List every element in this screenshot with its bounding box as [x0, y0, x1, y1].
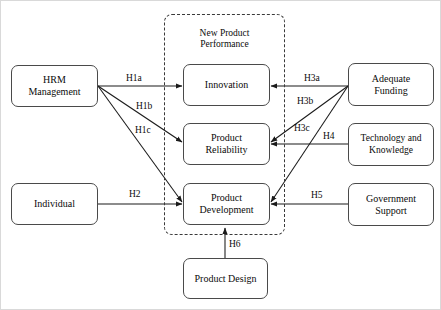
group-title-line1: New Product [164, 28, 285, 39]
edge-label-h5: H5 [311, 190, 323, 200]
node-innovation[interactable]: Innovation [183, 64, 270, 106]
edge-label-h3c: H3c [294, 123, 310, 133]
node-hrm-management-line1: HRM [25, 74, 83, 86]
node-product-design-line1: Product Design [192, 273, 260, 285]
node-hrm-management-line2: Management [25, 86, 83, 98]
edge-label-h1c: H1c [135, 125, 151, 135]
edge-label-h4: H4 [323, 131, 335, 141]
node-product-development-line1: Product [197, 192, 257, 204]
node-innovation-line1: Innovation [202, 79, 251, 91]
node-adequate-funding[interactable]: Adequate Funding [348, 63, 434, 106]
node-technology-knowledge[interactable]: Technology and Knowledge [348, 123, 434, 166]
node-technology-knowledge-line1: Technology and [358, 133, 425, 144]
diagram-canvas: New Product Performance [0, 0, 441, 310]
node-adequate-funding-line2: Funding [369, 85, 413, 97]
edge-label-h2: H2 [129, 189, 141, 199]
edge-label-h6: H6 [229, 239, 241, 249]
edge-label-h3b: H3b [297, 96, 313, 106]
node-government-support-line2: Support [363, 205, 419, 217]
node-government-support[interactable]: Government Support [348, 183, 434, 226]
group-title: New Product Performance [164, 28, 285, 51]
node-adequate-funding-line1: Adequate [369, 73, 413, 85]
node-individual[interactable]: Individual [11, 183, 98, 225]
group-title-line2: Performance [164, 39, 285, 50]
node-technology-knowledge-line2: Knowledge [358, 145, 425, 156]
node-product-development-line2: Development [197, 204, 257, 216]
edge-label-h1a: H1a [126, 73, 142, 83]
edge-label-h3a: H3a [304, 73, 320, 83]
node-product-reliability[interactable]: Product Reliability [183, 123, 270, 165]
node-hrm-management[interactable]: HRM Management [11, 65, 98, 107]
node-product-reliability-line2: Reliability [202, 144, 250, 156]
node-product-reliability-line1: Product [202, 132, 250, 144]
edge-label-h1b: H1b [136, 101, 152, 111]
node-individual-line1: Individual [31, 198, 78, 210]
node-product-development[interactable]: Product Development [183, 183, 270, 225]
node-product-design[interactable]: Product Design [183, 258, 268, 299]
node-government-support-line1: Government [363, 193, 419, 205]
